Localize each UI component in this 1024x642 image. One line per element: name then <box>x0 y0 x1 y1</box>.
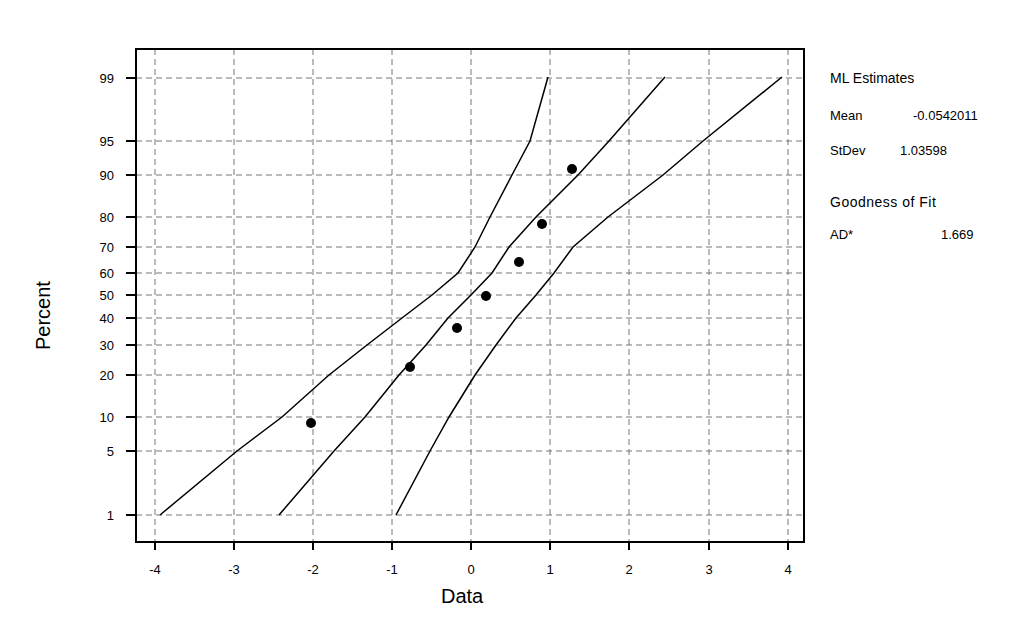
y-tick-label: 1 <box>107 508 114 523</box>
y-tick-label: 60 <box>100 266 114 281</box>
stdev-label: StDev <box>830 143 865 158</box>
fitted-line <box>279 77 665 515</box>
y-tick-label: 80 <box>100 210 114 225</box>
x-axis-label: Data <box>441 585 483 608</box>
y-tick-label: 30 <box>100 338 114 353</box>
y-tick-label: 20 <box>100 368 114 383</box>
ad-value: 1.669 <box>941 227 974 242</box>
data-point <box>306 418 316 428</box>
mean-label: Mean <box>830 108 863 123</box>
upper-confidence-band <box>396 77 782 515</box>
ad-label: AD* <box>830 227 853 242</box>
y-tick-label: 90 <box>100 168 114 183</box>
probability-plot: -4-3-2-101234151020304050607080909599 <box>0 0 1024 642</box>
x-tick-label: 2 <box>625 562 632 577</box>
y-tick-label: 95 <box>100 134 114 149</box>
y-tick-label: 70 <box>100 240 114 255</box>
data-point <box>567 164 577 174</box>
ml-estimates-title: ML Estimates <box>830 70 914 86</box>
y-tick-label: 10 <box>100 410 114 425</box>
x-tick-label: 0 <box>467 562 474 577</box>
data-point <box>481 291 491 301</box>
data-point <box>537 219 547 229</box>
goodness-of-fit-title: Goodness of Fit <box>830 194 936 210</box>
y-axis-label: Percent <box>32 281 55 350</box>
stdev-value: 1.03598 <box>900 143 947 158</box>
x-tick-label: -1 <box>386 562 398 577</box>
x-tick-label: -3 <box>228 562 240 577</box>
data-point <box>405 362 415 372</box>
y-tick-label: 50 <box>100 288 114 303</box>
y-tick-label: 5 <box>107 444 114 459</box>
x-tick-label: -4 <box>149 562 161 577</box>
data-point <box>514 257 524 267</box>
x-tick-label: 1 <box>546 562 553 577</box>
y-tick-label: 40 <box>100 311 114 326</box>
x-tick-label: 4 <box>784 562 791 577</box>
x-tick-label: 3 <box>705 562 712 577</box>
data-point <box>452 323 462 333</box>
y-tick-label: 99 <box>100 71 114 86</box>
mean-value: -0.0542011 <box>913 108 978 123</box>
x-tick-label: -2 <box>307 562 319 577</box>
